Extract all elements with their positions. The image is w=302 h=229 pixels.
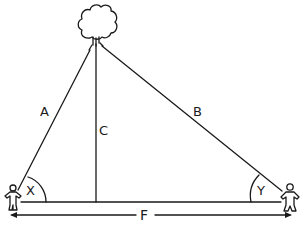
triangulation-diagram: A B C X Y F: [0, 0, 302, 229]
right-person-icon: [281, 184, 299, 211]
tree-icon: [78, 5, 117, 50]
label-x: X: [26, 183, 35, 198]
label-b: B: [193, 104, 202, 119]
label-f: F: [140, 207, 148, 223]
distance-arrow-f: [10, 212, 292, 218]
side-line-a: [18, 50, 90, 190]
label-a: A: [40, 104, 49, 119]
label-c: C: [99, 123, 108, 138]
side-line-b: [102, 46, 282, 191]
arrow-left-icon: [10, 212, 17, 218]
label-y: Y: [256, 183, 265, 198]
arrow-right-icon: [285, 212, 292, 218]
